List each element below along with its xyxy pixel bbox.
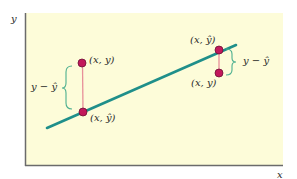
right-residual-label: y − ŷ — [243, 56, 269, 66]
x-axis-label: x — [277, 170, 283, 179]
left-residual-label: y − ŷ — [31, 82, 57, 92]
y-axis-label: y — [11, 14, 17, 24]
left-predicted-label: (x, ŷ) — [90, 113, 115, 123]
left-residual-segment — [83, 63, 84, 112]
left-observed-label: (x, y) — [89, 55, 114, 65]
right-predicted-label: (x, ŷ) — [190, 35, 215, 45]
point-right-observed — [215, 69, 223, 77]
point-right-predicted — [215, 46, 223, 54]
point-left-observed — [78, 59, 86, 67]
point-left-predicted — [79, 108, 87, 116]
right-observed-label: (x, y) — [191, 78, 216, 88]
